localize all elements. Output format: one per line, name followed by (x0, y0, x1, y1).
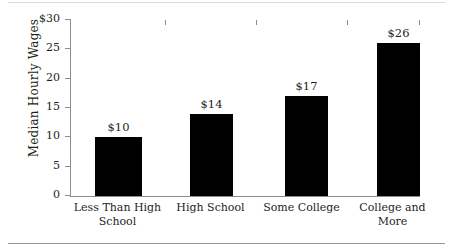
x-tick-start (70, 20, 71, 25)
x-tick-3 (347, 20, 348, 25)
bar-value-label-3: $26 (388, 26, 410, 40)
bar-value-label-1: $14 (201, 97, 223, 111)
bar-some-college[interactable]: $17 (285, 96, 328, 196)
y-tick-label-20: 20 (46, 70, 60, 85)
y-axis-title: Median Hourly Wages (22, 0, 46, 176)
bar-chart-figure: Median Hourly Wages 0 5 10 15 20 25 $30 (0, 0, 453, 252)
y-tick-label-15: 15 (46, 99, 60, 114)
y-tick-label-5: 5 (53, 158, 60, 173)
y-tick-25: 25 (65, 48, 70, 49)
plot-area: 0 5 10 15 20 25 $30 $10 $14 (70, 20, 420, 196)
y-tick-label-10: 10 (46, 128, 60, 143)
y-tick-20: 20 (65, 78, 70, 79)
bar-high-school[interactable]: $14 (190, 114, 233, 196)
bottom-divider-rule (8, 243, 445, 244)
y-tick-0: 0 (65, 195, 70, 196)
bar-college-and-more[interactable]: $26 (377, 43, 420, 196)
bar-value-label-0: $10 (108, 120, 130, 134)
x-tick-2 (256, 20, 257, 25)
y-tick-label-30: $30 (39, 11, 60, 26)
x-tick-1 (165, 20, 166, 25)
bar-value-label-2: $17 (296, 79, 318, 93)
y-tick-5: 5 (65, 166, 70, 167)
x-category-label-some-college: Some College (256, 201, 347, 215)
bar-less-than-high-school[interactable]: $10 (95, 137, 142, 196)
y-tick-15: 15 (65, 107, 70, 108)
top-divider-rule (8, 2, 445, 3)
x-axis-line (70, 196, 420, 197)
y-tick-10: 10 (65, 136, 70, 137)
x-category-label-college-and-more: College and More (347, 201, 438, 229)
x-category-label-high-school: High School (165, 201, 256, 215)
x-category-label-less-than-high-school: Less Than High School (70, 201, 165, 229)
y-tick-label-25: 25 (46, 40, 60, 55)
x-tick-end (419, 20, 420, 25)
y-tick-label-0: 0 (53, 187, 60, 202)
